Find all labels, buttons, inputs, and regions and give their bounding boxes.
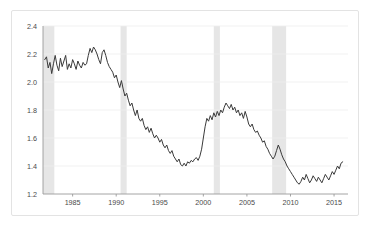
y-tick-label: 1.4 — [27, 162, 37, 171]
y-tick-label: 1.6 — [27, 134, 37, 143]
x-axis-tick-labels: 1985199019952000200520102015 — [65, 198, 342, 207]
y-tick-label: 1.2 — [27, 190, 37, 199]
x-tick-label: 2005 — [239, 198, 255, 207]
x-tick-label: 2015 — [326, 198, 342, 207]
x-tick-label: 2010 — [282, 198, 298, 207]
gridlines — [43, 26, 348, 166]
y-axis-tick-labels: 1.21.41.61.82.02.22.4 — [27, 22, 37, 199]
y-tick-label: 1.8 — [27, 106, 37, 115]
y-tick-label: 2.0 — [27, 78, 37, 87]
x-tick-label: 1985 — [65, 198, 81, 207]
x-tick-label: 1995 — [152, 198, 168, 207]
y-tick-label: 2.2 — [27, 50, 37, 59]
x-tick-label: 2000 — [195, 198, 211, 207]
chart-figure: 1.21.41.61.82.02.22.4 198519901995200020… — [0, 0, 370, 230]
data-series — [45, 47, 343, 184]
series-line-series-1 — [45, 47, 343, 184]
line-chart: 1.21.41.61.82.02.22.4 198519901995200020… — [0, 0, 370, 230]
x-tick-label: 1990 — [108, 198, 124, 207]
y-tick-label: 2.4 — [27, 22, 37, 31]
